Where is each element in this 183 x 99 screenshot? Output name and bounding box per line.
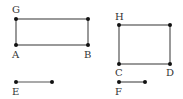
point-g	[14, 17, 18, 21]
point-d	[168, 62, 172, 66]
label-f: F	[115, 86, 122, 97]
rectangle-gab	[16, 19, 88, 45]
point-h	[117, 23, 121, 27]
point-c	[117, 62, 121, 66]
geometry-figure: G A B H C D E F	[0, 0, 183, 99]
label-e: E	[12, 86, 19, 97]
point-a	[14, 43, 18, 47]
rectangle-hcd	[119, 25, 170, 64]
label-d: D	[166, 67, 174, 78]
segment-f-start	[117, 80, 121, 84]
point-b	[86, 43, 90, 47]
label-c: C	[115, 67, 123, 78]
label-h: H	[115, 11, 124, 22]
label-a: A	[11, 49, 20, 60]
label-g: G	[12, 4, 20, 15]
point-top-right-right-rect	[168, 23, 172, 27]
segment-e-start	[14, 80, 18, 84]
label-b: B	[84, 49, 91, 60]
segment-e-end	[50, 80, 54, 84]
point-top-right-left-rect	[86, 17, 90, 21]
segment-f-end	[143, 80, 147, 84]
